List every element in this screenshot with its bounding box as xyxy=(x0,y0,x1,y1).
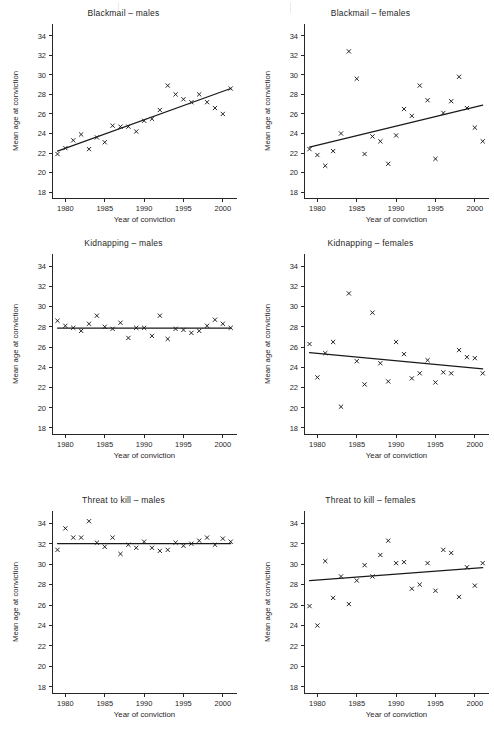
chart-panel: Threat to kill – males182022242628303234… xyxy=(0,477,247,738)
x-axis-title: Year of conviction xyxy=(114,451,175,460)
data-point-marker xyxy=(323,164,327,168)
data-point-marker xyxy=(473,584,477,588)
data-point-marker xyxy=(181,97,185,101)
y-tick-label: 18 xyxy=(290,683,298,692)
y-tick-label: 20 xyxy=(38,168,46,177)
data-point-marker xyxy=(457,348,461,352)
x-tick-label: 2000 xyxy=(214,440,231,449)
y-tick-label: 34 xyxy=(290,262,298,271)
data-point-marker xyxy=(221,322,225,326)
data-point-marker xyxy=(197,539,201,543)
y-tick-label: 24 xyxy=(38,621,46,630)
y-tick-label: 22 xyxy=(38,642,46,651)
data-point-marker xyxy=(134,546,138,550)
y-tick-label: 28 xyxy=(290,323,298,332)
data-point-marker xyxy=(158,314,162,318)
trend-line xyxy=(310,105,483,147)
data-point-marker xyxy=(457,595,461,599)
data-point-marker xyxy=(315,375,319,379)
data-point-marker xyxy=(189,331,193,335)
data-point-marker xyxy=(481,371,485,375)
chart-title: Kidnapping – males xyxy=(0,238,247,248)
data-point-marker xyxy=(221,537,225,541)
data-point-marker xyxy=(111,327,115,331)
x-tick-label: 1980 xyxy=(309,204,326,213)
data-point-marker xyxy=(79,535,83,539)
data-point-marker xyxy=(63,324,67,328)
trend-line xyxy=(58,89,231,152)
x-tick-label: 1985 xyxy=(348,204,365,213)
y-tick-label: 20 xyxy=(38,662,46,671)
data-point-marker xyxy=(166,83,170,87)
data-point-marker xyxy=(126,336,130,340)
chart-panel: Kidnapping – females18202224262830323419… xyxy=(247,232,494,477)
scan-artifact xyxy=(118,2,119,13)
data-point-marker xyxy=(363,563,367,567)
chart-title: Blackmail – females xyxy=(247,8,494,18)
data-point-marker xyxy=(158,549,162,553)
data-point-marker xyxy=(173,327,177,331)
data-point-marker xyxy=(87,519,91,523)
data-point-marker xyxy=(181,544,185,548)
x-axis-title: Year of conviction xyxy=(114,710,175,719)
y-tick-label: 34 xyxy=(38,32,46,41)
y-tick-label: 30 xyxy=(290,71,298,80)
data-point-marker xyxy=(221,112,225,116)
data-point-marker xyxy=(473,126,477,130)
y-tick-label: 18 xyxy=(38,683,46,692)
y-tick-label: 18 xyxy=(290,188,298,197)
data-point-marker xyxy=(418,583,422,587)
data-point-marker xyxy=(481,561,485,565)
data-point-marker xyxy=(173,541,177,545)
y-tick-label: 30 xyxy=(38,71,46,80)
y-axis-title: Mean age at conviction xyxy=(263,304,272,384)
data-point-marker xyxy=(394,133,398,137)
data-point-marker xyxy=(63,526,67,530)
x-tick-label: 1980 xyxy=(309,699,326,708)
data-point-marker xyxy=(103,545,107,549)
y-axis-title: Mean age at conviction xyxy=(11,304,20,384)
chart-panel: Kidnapping – males1820222426283032341980… xyxy=(0,232,247,477)
x-tick-label: 1985 xyxy=(348,699,365,708)
data-point-marker xyxy=(418,371,422,375)
y-tick-label: 22 xyxy=(38,149,46,158)
data-point-marker xyxy=(173,92,177,96)
data-point-marker xyxy=(95,314,99,318)
y-tick-label: 22 xyxy=(290,642,298,651)
data-point-marker xyxy=(347,49,351,53)
data-point-marker xyxy=(118,321,122,325)
y-tick-label: 22 xyxy=(290,383,298,392)
data-point-marker xyxy=(166,548,170,552)
scatter-plot: 18202224262830323419801985199019952000Ye… xyxy=(247,0,494,232)
data-point-marker xyxy=(55,548,59,552)
data-point-marker xyxy=(315,153,319,157)
data-point-marker xyxy=(449,551,453,555)
chart-title: Threat to kill – females xyxy=(247,495,494,505)
data-point-marker xyxy=(481,139,485,143)
y-tick-label: 20 xyxy=(38,404,46,413)
x-tick-label: 2000 xyxy=(466,204,483,213)
data-point-marker xyxy=(355,359,359,363)
y-tick-label: 30 xyxy=(38,302,46,311)
data-point-marker xyxy=(355,77,359,81)
x-tick-label: 1980 xyxy=(57,440,74,449)
x-axis-title: Year of conviction xyxy=(366,215,427,224)
x-tick-label: 2000 xyxy=(466,440,483,449)
data-point-marker xyxy=(315,623,319,627)
y-tick-label: 32 xyxy=(38,51,46,60)
data-point-marker xyxy=(331,596,335,600)
chart-title: Kidnapping – females xyxy=(247,238,494,248)
scatter-plot: 18202224262830323419801985199019952000Ye… xyxy=(0,477,247,738)
x-tick-label: 2000 xyxy=(214,204,231,213)
data-point-marker xyxy=(95,541,99,545)
data-point-marker xyxy=(197,329,201,333)
x-tick-label: 1985 xyxy=(96,440,113,449)
data-point-marker xyxy=(205,535,209,539)
chart-panel: Blackmail – males18202224262830323419801… xyxy=(0,0,247,232)
data-point-marker xyxy=(347,602,351,606)
chart-panel: Threat to kill – females1820222426283032… xyxy=(247,477,494,738)
y-tick-label: 22 xyxy=(290,149,298,158)
data-point-marker xyxy=(71,535,75,539)
x-tick-label: 1990 xyxy=(136,699,153,708)
chart-title: Threat to kill – males xyxy=(0,495,247,505)
